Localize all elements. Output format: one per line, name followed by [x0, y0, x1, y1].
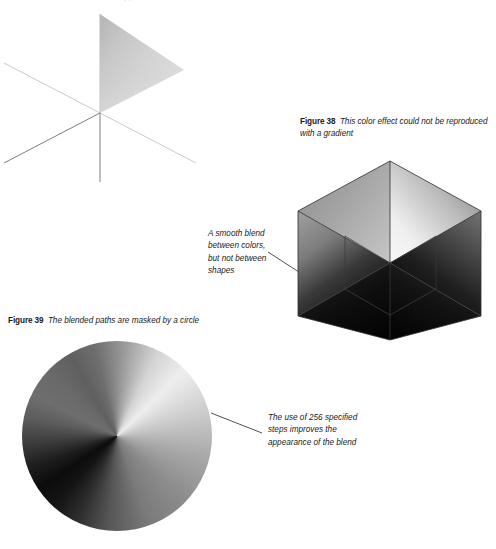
figure-39-caption: Figure 39The blended paths are masked by… — [8, 315, 268, 327]
cube-annotation-line-4: shapes — [208, 265, 266, 277]
triangle-axes-svg — [0, 0, 248, 182]
circle-annotation-line-3: appearance of the blend — [268, 437, 357, 449]
cube-annotation-line-3: but not between — [208, 253, 266, 265]
figure-39-artwork — [18, 336, 218, 541]
figure-38-caption-line-2: with a gradient — [300, 129, 353, 138]
blended-circle — [22, 341, 212, 531]
cube-annotation-line-2: between colors, — [208, 240, 266, 252]
figure-38-artwork — [280, 150, 496, 350]
axis-line-down-right — [100, 113, 196, 163]
circle-annotation-leader-line — [210, 411, 266, 437]
figure-37-artwork — [0, 0, 248, 182]
figure-39-label: Figure 39 — [8, 316, 48, 325]
axis-line-down-left — [4, 113, 100, 163]
cube-annotation: A smooth blend between colors, but not b… — [208, 228, 266, 278]
axis-line-up-left — [4, 63, 100, 113]
circle-annotation-line-1: The use of 256 specified — [268, 412, 357, 424]
figure-page: with the blend tool applied — [0, 0, 496, 549]
gradient-triangle-overlay — [100, 14, 184, 113]
circle-annotation: The use of 256 specified steps improves … — [268, 412, 357, 449]
figure-39-caption-line-1: The blended paths are masked by a circle — [48, 316, 199, 325]
figure-38-caption-line-1: This color effect could not be reproduce… — [340, 117, 488, 126]
figure-38-label: Figure 38 — [300, 117, 340, 126]
isometric-cube-svg — [280, 150, 496, 350]
circle-annotation-line-2: steps improves the — [268, 424, 357, 436]
figure-38-caption: Figure 38This color effect could not be … — [300, 116, 496, 140]
cube-annotation-line-1: A smooth blend — [208, 228, 266, 240]
